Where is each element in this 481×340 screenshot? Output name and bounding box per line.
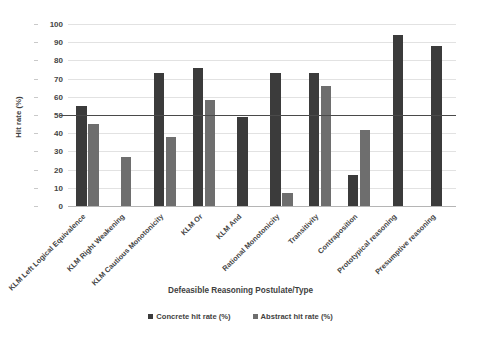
plot-area — [68, 24, 456, 206]
bar-concrete[interactable] — [393, 35, 404, 206]
x-axis-category-label: KLM Or — [179, 212, 204, 237]
x-axis-category-label: Transitivity — [287, 212, 321, 246]
legend-label: Abstract hit rate (%) — [261, 312, 333, 321]
legend-item[interactable]: Concrete hit rate (%) — [148, 312, 230, 321]
y-axis-tick-mark — [34, 60, 38, 61]
y-axis-title: Hit rate (%) — [14, 72, 28, 162]
bar-abstract[interactable] — [88, 124, 99, 206]
y-axis-tick-mark — [34, 133, 38, 134]
bar-abstract[interactable] — [166, 137, 177, 206]
legend-swatch-icon — [148, 314, 153, 319]
legend-label: Concrete hit rate (%) — [156, 312, 230, 321]
reference-line-50 — [60, 115, 456, 116]
bar-abstract[interactable] — [121, 157, 132, 206]
x-axis-category-label: Contraposition — [316, 212, 360, 256]
bar-concrete[interactable] — [270, 73, 281, 206]
bar-concrete[interactable] — [154, 73, 165, 206]
bar-abstract[interactable] — [282, 193, 293, 206]
x-axis-category-labels: KLM Left Logical EquivalenceKLM Right We… — [0, 206, 481, 286]
y-axis-tick-mark — [34, 115, 38, 116]
bar-abstract[interactable] — [360, 130, 371, 206]
x-axis-category-label: KLM And — [214, 212, 243, 241]
bar-concrete[interactable] — [309, 73, 320, 206]
x-axis-title: Defeasible Reasoning Postulate/Type — [0, 286, 481, 295]
bar-concrete[interactable] — [76, 106, 87, 206]
y-axis-tick-mark — [34, 151, 38, 152]
y-axis-tick-mark — [34, 42, 38, 43]
legend-swatch-icon — [253, 314, 258, 319]
bar-concrete[interactable] — [237, 117, 248, 206]
bar-concrete[interactable] — [431, 46, 442, 206]
x-axis-category-label: KLM Cautious Monotonicity — [90, 212, 165, 287]
y-axis-tick-mark — [34, 188, 38, 189]
y-axis-tick-mark — [34, 170, 38, 171]
x-axis-category-label: KLM Left Logical Equivalence — [7, 212, 87, 292]
bar-chart: Hit rate (%) 0102030405060708090100 KLM … — [0, 0, 481, 340]
y-axis-tick-mark — [34, 97, 38, 98]
y-axis-tick-mark — [34, 206, 38, 207]
bar-concrete[interactable] — [348, 175, 359, 206]
bar-concrete[interactable] — [193, 68, 204, 206]
bar-abstract[interactable] — [321, 86, 332, 206]
y-axis-tick-mark — [34, 79, 38, 80]
legend-item[interactable]: Abstract hit rate (%) — [253, 312, 333, 321]
y-axis-tick-mark — [34, 24, 38, 25]
chart-legend: Concrete hit rate (%)Abstract hit rate (… — [0, 312, 481, 321]
